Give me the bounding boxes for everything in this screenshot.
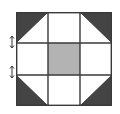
double-arrow-vertical-icon: [9, 35, 15, 49]
quilt-block: [16, 12, 112, 106]
quilt-block-svg: [16, 12, 112, 106]
double-arrow-vertical-icon: [9, 65, 15, 79]
center-square: [48, 43, 80, 75]
